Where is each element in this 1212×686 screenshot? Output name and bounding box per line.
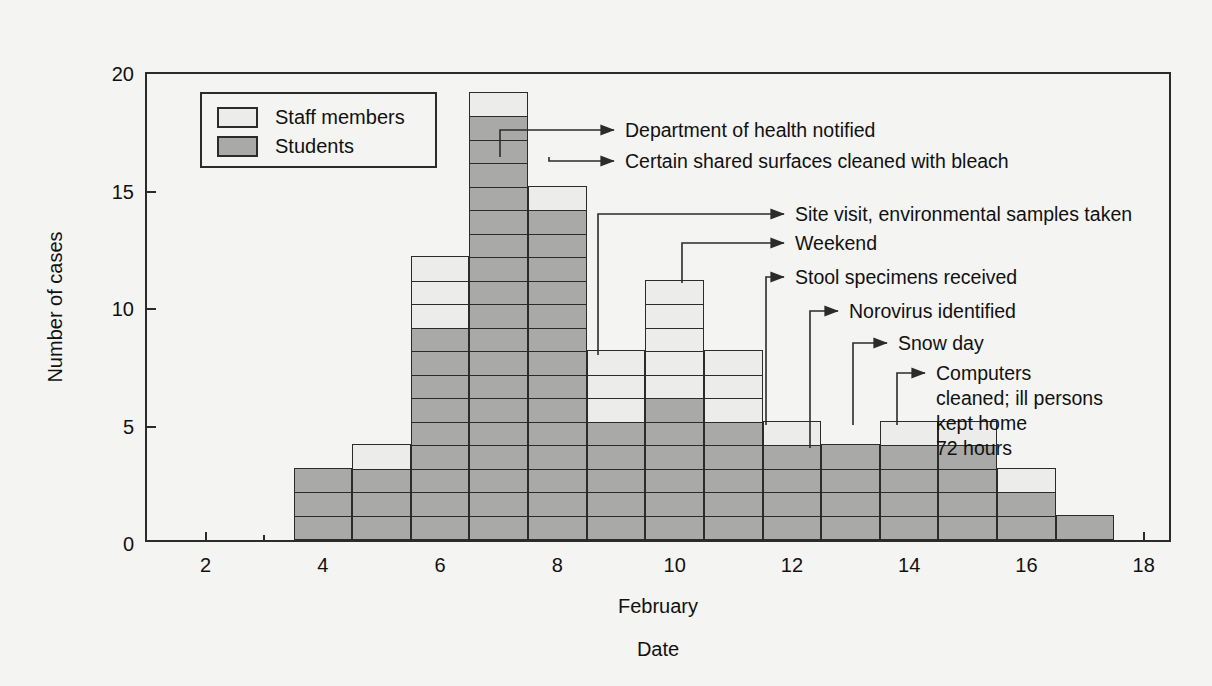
chart-page: Number of cases February Date 05101520 2… bbox=[0, 0, 1212, 686]
annotation-leader-lines bbox=[0, 0, 1212, 686]
